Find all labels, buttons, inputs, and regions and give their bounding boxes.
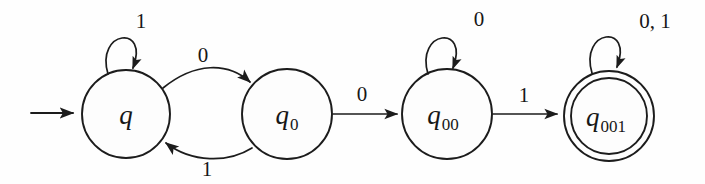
automaton-figure: q 1 0 1 q0 0 — [0, 0, 705, 184]
automaton-canvas: q 1 0 1 q0 0 — [0, 0, 705, 184]
transition-label-q0-q: 1 — [202, 157, 213, 181]
state-label-q: q — [119, 100, 133, 130]
transition-q-to-q0-on-0[interactable]: 0 — [163, 43, 250, 88]
transition-loop-q001-on-0-1[interactable]: 0, 1 — [590, 9, 671, 73]
transition-q00-to-q001-on-1[interactable]: 1 — [493, 83, 557, 114]
transition-loop-q00-on-0[interactable]: 0 — [426, 7, 484, 74]
state-q00[interactable]: q00 — [402, 69, 492, 159]
loop-arrow-q001[interactable] — [590, 37, 620, 73]
transition-label-q-q0: 0 — [198, 43, 209, 67]
state-q[interactable]: q — [82, 70, 170, 158]
transition-q0-to-q00-on-0[interactable]: 0 — [333, 82, 397, 114]
state-q0[interactable]: q0 — [242, 69, 332, 159]
transition-q0-to-q-on-1[interactable]: 1 — [166, 143, 252, 181]
transition-label-q00-q001: 1 — [519, 83, 530, 107]
transition-label-loop-q: 1 — [136, 9, 147, 33]
transition-label-q0-q00: 0 — [357, 82, 368, 106]
transition-label-loop-q00: 0 — [474, 7, 485, 31]
loop-arrow-q[interactable] — [106, 38, 136, 74]
state-circle-q00[interactable] — [402, 69, 492, 159]
edge-arrow-q-q0[interactable] — [163, 68, 250, 88]
state-q001[interactable]: q001 — [564, 71, 654, 161]
transition-label-loop-q001: 0, 1 — [639, 9, 671, 33]
transition-loop-q-on-1[interactable]: 1 — [106, 9, 146, 74]
state-circle-q001-outer[interactable] — [564, 71, 654, 161]
